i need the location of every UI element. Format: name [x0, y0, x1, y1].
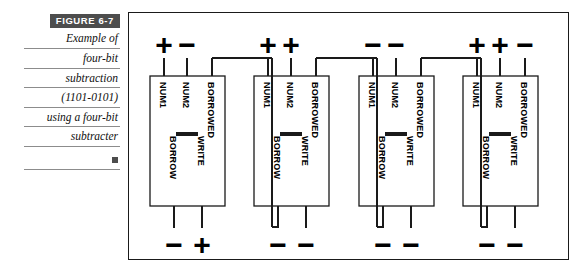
circuit-diagram-canvas: NUM1NUM2BORROWEDBORROWWRITE+−−+NUM1NUM2B…	[129, 13, 570, 261]
port-label-write-b0: WRITE	[196, 136, 206, 166]
block-minus-symbol-b3	[489, 132, 511, 136]
caption-line-6: subtracter	[24, 129, 120, 147]
port-label-num2-b3: NUM2	[494, 82, 504, 108]
figure-root: FIGURE 6-7 Example of four-bit subtracti…	[0, 0, 583, 274]
bot-sign-2-b1: −	[293, 230, 319, 260]
port-label-num1-b2: NUM1	[367, 82, 377, 108]
port-label-borrowed-b1: BORROWED	[310, 82, 320, 138]
top-sign-2-b2: −	[383, 30, 409, 60]
figure-number-tag: FIGURE 6-7	[50, 14, 120, 29]
block-minus-symbol-b2	[385, 132, 407, 136]
port-label-borrowed-b0: BORROWED	[206, 82, 216, 138]
block-minus-symbol-b1	[280, 132, 302, 136]
port-label-borrow-b0: BORROW	[168, 136, 178, 179]
port-label-num2-b0: NUM2	[181, 82, 191, 108]
bot-sign-2-b2: −	[398, 230, 424, 260]
bot-sign-1-b0: −	[161, 230, 187, 260]
caption-line-2: four-bit	[24, 51, 120, 69]
port-label-borrow-b1: BORROW	[272, 136, 282, 179]
port-label-write-b1: WRITE	[300, 136, 310, 166]
port-label-borrowed-b2: BORROWED	[415, 82, 425, 138]
port-label-num1-b1: NUM1	[262, 82, 272, 108]
port-label-write-b3: WRITE	[509, 136, 519, 166]
caption-line-4: (1101-0101)	[24, 90, 120, 108]
top-sign-3-b3: −	[512, 30, 538, 60]
caption-line-1: Example of	[24, 31, 120, 49]
port-label-borrowed-b3: BORROWED	[519, 82, 529, 138]
port-label-num1-b3: NUM1	[471, 82, 481, 108]
bot-sign-2-b3: −	[502, 230, 528, 260]
caption-line-3: subtraction	[24, 71, 120, 89]
port-label-borrow-b2: BORROW	[377, 136, 387, 179]
caption-line-5: using a four-bit	[24, 110, 120, 128]
circuit-diagram-frame: NUM1NUM2BORROWEDBORROWWRITE+−−+NUM1NUM2B…	[128, 12, 569, 260]
port-label-write-b2: WRITE	[405, 136, 415, 166]
block-minus-symbol-b0	[176, 132, 198, 136]
top-sign-2-b3: +	[487, 30, 513, 60]
top-sign-2-b0: −	[174, 30, 200, 60]
port-label-borrow-b3: BORROW	[481, 136, 491, 179]
bot-sign-2-b0: +	[189, 230, 215, 260]
figure-caption-block: FIGURE 6-7 Example of four-bit subtracti…	[24, 10, 120, 170]
end-of-caption-marker-icon	[112, 157, 118, 163]
bot-sign-1-b2: −	[370, 230, 396, 260]
bot-sign-1-b3: −	[474, 230, 500, 260]
port-label-num2-b1: NUM2	[285, 82, 295, 108]
port-label-num2-b2: NUM2	[390, 82, 400, 108]
top-sign-2-b1: +	[278, 30, 304, 60]
caption-end-row	[24, 147, 120, 170]
bot-sign-1-b1: −	[265, 230, 291, 260]
port-label-num1-b0: NUM1	[158, 82, 168, 108]
